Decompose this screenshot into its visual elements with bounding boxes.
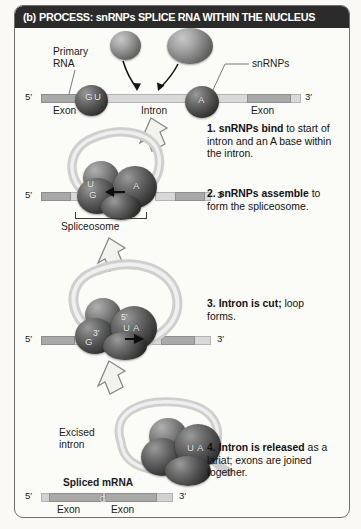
step-4: 4.Intron is released as a lariat; exons … xyxy=(207,442,335,480)
cut-arrow-stage2 xyxy=(103,184,143,202)
step-2-number: 2. xyxy=(207,188,216,199)
loop-three-prime-stage3: 3′ xyxy=(93,328,99,338)
cut-arrow-stage3 xyxy=(119,332,155,348)
snrnp-blob-free-left xyxy=(110,31,141,60)
three-prime-stage4: 3′ xyxy=(179,490,186,501)
figure-title-bar: (b) PROCESS: snRNPs SPLICE RNA WITHIN TH… xyxy=(15,6,350,28)
base-a-stage4: A xyxy=(197,442,203,453)
label-primary-rna: Primary RNA xyxy=(53,46,113,69)
base-g-stage3: G xyxy=(85,336,92,347)
step-3-bold: Intron is cut; xyxy=(219,298,282,309)
base-u-stage1: U xyxy=(94,91,101,102)
three-prime-stage1: 3′ xyxy=(305,91,312,102)
loop-five-prime-stage3: 5′ xyxy=(121,312,127,322)
snrnp-blob-free-right xyxy=(167,28,213,64)
five-prime-stage4: 5′ xyxy=(25,490,32,501)
label-exon-left-stage4: Exon xyxy=(57,504,80,516)
label-excised-intron: Excised intron xyxy=(59,427,119,450)
five-prime-stage3: 5′ xyxy=(25,333,32,344)
label-snrnps: snRNPs xyxy=(252,58,289,70)
figure-frame: (b) PROCESS: snRNPs SPLICE RNA WITHIN TH… xyxy=(14,5,350,518)
label-primary-rna-line2: RNA xyxy=(53,58,75,69)
label-primary-rna-line1: Primary xyxy=(53,46,88,57)
figure-snrnp-splicing: (b) PROCESS: snRNPs SPLICE RNA WITHIN TH… xyxy=(0,0,361,529)
figure-title: PROCESS: snRNPs SPLICE RNA WITHIN THE NU… xyxy=(39,11,315,23)
five-prime-stage1: 5′ xyxy=(25,91,32,102)
step-1-bold: snRNPs bind xyxy=(219,123,284,134)
base-u-stage2: U xyxy=(87,178,94,189)
exon-right-stage4 xyxy=(105,493,157,502)
label-spliced-mrna: Spliced mRNA xyxy=(63,477,133,489)
step-1: 1.snRNPs bind to start of intron and an … xyxy=(207,123,335,161)
step-4-bold: Intron is released xyxy=(219,442,305,453)
step-2-bold: snRNPs assemble xyxy=(219,188,309,199)
exon-right-stage1 xyxy=(247,94,291,103)
step-3-number: 3. xyxy=(207,298,216,309)
label-spliceosome: Spliceosome xyxy=(61,221,119,233)
base-g-stage4: G xyxy=(99,493,106,504)
base-a-stage1: A xyxy=(198,94,204,105)
label-exon-right-stage4: Exon xyxy=(111,504,134,516)
flow-arrow-3 xyxy=(93,361,133,395)
label-intron-stage1: Intron xyxy=(141,105,167,117)
label-excised-intron-line2: intron xyxy=(59,439,84,450)
spliceosome-bracket xyxy=(75,212,147,219)
base-g-stage2: G xyxy=(89,189,96,200)
snrnp-blob-bottom-stage4 xyxy=(165,456,211,486)
step-3: 3.Intron is cut; loop forms. xyxy=(207,298,335,323)
step-4-number: 4. xyxy=(207,442,216,453)
label-excised-intron-line1: Excised xyxy=(59,427,95,438)
five-prime-stage2: 5′ xyxy=(25,189,32,200)
step-2: 2.snRNPs assemble to form the spliceosom… xyxy=(207,188,335,213)
base-u-stage4: U xyxy=(187,442,194,453)
exon-left-stage4 xyxy=(49,493,103,502)
panel-letter: (b) xyxy=(23,11,36,23)
label-exon-right-stage1: Exon xyxy=(251,105,274,117)
base-g-stage1: G xyxy=(85,91,92,102)
label-exon-left-stage1: Exon xyxy=(53,105,76,117)
